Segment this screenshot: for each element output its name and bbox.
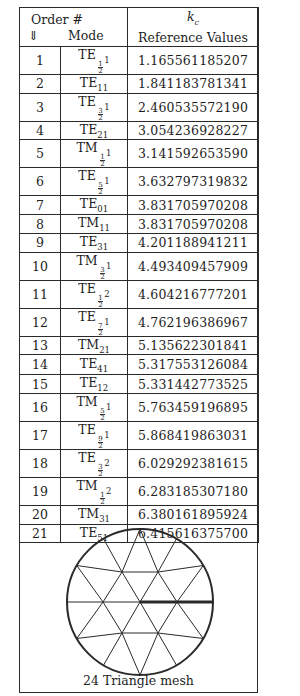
order-cell: 6 — [20, 168, 61, 196]
order-cell: 17 — [20, 422, 61, 450]
mode-label: TE321 — [78, 94, 109, 109]
mesh-edge — [122, 529, 140, 572]
mode-label: TE921 — [78, 422, 109, 437]
mode-cell: TE41 — [61, 355, 128, 375]
order-cell: 4 — [20, 121, 61, 140]
reference-values-label: Reference Values — [138, 30, 248, 45]
table-row: 16TM5215.763459196895 — [20, 394, 259, 422]
mesh-figure: 24 Triangle mesh — [19, 513, 258, 693]
order-cell: 1 — [20, 47, 61, 75]
order-cell: 18 — [20, 450, 61, 478]
table-row: 11TE1224.604216777201 — [20, 280, 259, 308]
mode-label: TM122 — [76, 478, 111, 493]
reference-value-cell: 5.763459196895 — [128, 394, 259, 422]
mesh-edge — [140, 633, 158, 675]
mode-cell: TM11 — [61, 215, 128, 234]
reference-value-cell: 3.054236928227 — [128, 121, 259, 140]
table-row: 10TM3214.493409457909 — [20, 252, 259, 280]
mesh-edge — [122, 633, 140, 675]
reference-value-cell: 4.493409457909 — [128, 252, 259, 280]
mode-cell: TE12 — [61, 375, 128, 394]
table-row: 6TE5213.632797319832 — [20, 168, 259, 196]
order-cell: 12 — [20, 308, 61, 336]
mode-label: TE521 — [78, 168, 109, 183]
table-row: 13TM215.135622301841 — [20, 336, 259, 355]
kc-symbol: kc — [187, 9, 199, 24]
fraction-subscript: 12 — [100, 492, 105, 505]
reference-values-table: Order # ⇓ Mode kc Reference Values 1TE12… — [19, 7, 259, 543]
table-row: 7TE013.831705970208 — [20, 196, 259, 215]
reference-value-cell: 5.868419863031 — [128, 422, 259, 450]
table-header-row: Order # ⇓ Mode kc Reference Values — [20, 8, 259, 47]
mode-label: TE121 — [78, 47, 109, 62]
order-cell: 14 — [20, 355, 61, 375]
mesh-edge — [158, 633, 177, 665]
reference-value-cell: 1.841183781341 — [128, 75, 259, 94]
table-row: 17TE9215.868419863031 — [20, 422, 259, 450]
reference-value-cell: 6.283185307180 — [128, 478, 259, 506]
mode-label: TE122 — [78, 281, 109, 296]
mode-label: TM521 — [76, 394, 111, 409]
order-cell: 5 — [20, 140, 61, 168]
reference-value-cell: 3.632797319832 — [128, 168, 259, 196]
order-cell: 8 — [20, 215, 61, 234]
mode-cell: TE921 — [61, 422, 128, 450]
reference-value-cell: 3.831705970208 — [128, 215, 259, 234]
table-row: 14TE415.317553126084 — [20, 355, 259, 375]
mode-cell: TE21 — [61, 121, 128, 140]
mesh-edge — [140, 529, 158, 572]
mesh-edge — [177, 602, 203, 639]
table-row: 4TE213.054236928227 — [20, 121, 259, 140]
mode-cell: TE01 — [61, 196, 128, 215]
mode-label: TM21 — [78, 337, 110, 352]
mesh-edge — [158, 539, 177, 572]
mode-label: TE41 — [80, 356, 108, 371]
mode-label: TE31 — [80, 234, 108, 249]
reference-value-cell: 5.317553126084 — [128, 355, 259, 375]
table-row: 5TM1213.141592653590 — [20, 140, 259, 168]
mode-cell: TE121 — [61, 47, 128, 75]
mesh-edge — [140, 602, 158, 633]
mesh-edge — [77, 566, 122, 573]
mode-header: Mode — [68, 28, 104, 43]
mesh-edge — [77, 566, 103, 603]
order-mode-header: Order # ⇓ Mode — [20, 8, 128, 47]
mode-cell: TE521 — [61, 168, 128, 196]
mesh-edge — [122, 572, 140, 602]
reference-value-cell: 4.604216777201 — [128, 280, 259, 308]
mode-cell: TM121 — [61, 140, 128, 168]
reference-values-header: kc Reference Values — [128, 8, 259, 47]
mode-label: TM321 — [76, 253, 111, 268]
fraction-subscript: 32 — [100, 267, 105, 280]
mode-label: TE11 — [80, 75, 108, 90]
mesh-edge — [77, 633, 122, 639]
fraction-subscript: 12 — [100, 154, 105, 167]
table-row: 2TE111.841183781341 — [20, 75, 259, 94]
table-row: 19TM1226.283185307180 — [20, 478, 259, 506]
mesh-edge — [104, 633, 123, 665]
figure-caption: 24 Triangle mesh — [19, 673, 258, 688]
reference-value-cell: 2.460535572190 — [128, 93, 259, 121]
order-cell: 10 — [20, 252, 61, 280]
reference-value-cell: 4.201188941211 — [128, 234, 259, 253]
fraction-subscript: 52 — [100, 408, 105, 421]
reference-value-cell: 5.135622301841 — [128, 336, 259, 355]
reference-value-cell: 5.331442773525 — [128, 375, 259, 394]
reference-value-cell: 1.165561185207 — [128, 47, 259, 75]
mode-cell: TM21 — [61, 336, 128, 355]
mesh-edge — [77, 602, 103, 639]
down-arrow-icon: ⇓ — [28, 28, 38, 43]
mode-cell: TM321 — [61, 252, 128, 280]
order-header: Order # — [31, 12, 83, 27]
mode-label: TE721 — [78, 309, 109, 324]
table-row: 18TE3226.029292381615 — [20, 450, 259, 478]
mode-label: TE322 — [78, 450, 109, 465]
reference-value-cell: 6.029292381615 — [128, 450, 259, 478]
mode-label: TE12 — [80, 375, 108, 390]
mode-label: TM11 — [78, 215, 110, 230]
fraction-subscript: 12 — [98, 295, 103, 308]
reference-value-cell: 3.141592653590 — [128, 140, 259, 168]
mesh-edge — [177, 566, 203, 603]
table-row: 1TE1211.165561185207 — [20, 47, 259, 75]
fraction-subscript: 52 — [98, 182, 103, 195]
